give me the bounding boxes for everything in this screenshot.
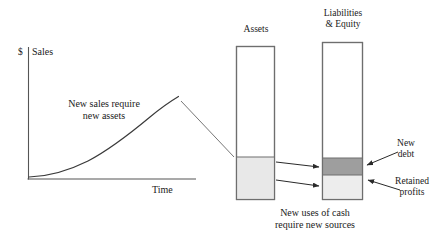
- assets-bar-title: Assets: [244, 24, 269, 35]
- arrow-new-debt-callout: [367, 152, 398, 165]
- assets-bar-segment-new-assets: [237, 157, 274, 200]
- connector-curve-to-assets: [181, 101, 234, 157]
- liabilities-bar-title-line2: & Equity: [324, 19, 363, 30]
- liabilities-bar-title: Liabilities & Equity: [324, 8, 363, 30]
- retained-profits-callout-line2: profits: [395, 187, 429, 198]
- liabilities-bar-segment-retained-profits: [323, 175, 362, 200]
- x-axis-title: Time: [152, 184, 173, 196]
- arrow-assets-to-retained-profits: [276, 180, 319, 186]
- liabilities-bar-segment-new-debt: [323, 158, 362, 175]
- figure-caption-line1: New uses of cash: [275, 207, 355, 219]
- new-debt-callout-line1: New: [397, 138, 415, 149]
- sales-curve-annotation: New sales require new assets: [68, 98, 140, 121]
- figure-caption-line2: require new sources: [275, 219, 355, 231]
- new-debt-callout-label: New debt: [397, 138, 415, 160]
- liabilities-bar-title-line1: Liabilities: [324, 8, 363, 19]
- y-axis-unit-label: $: [18, 47, 23, 58]
- figure-canvas: $ Sales Time New sales require new asset…: [0, 0, 445, 240]
- new-debt-callout-line2: debt: [397, 149, 415, 160]
- y-axis-title: Sales: [32, 46, 53, 58]
- retained-profits-callout-line1: Retained: [395, 176, 429, 187]
- sales-curve-annotation-line1: New sales require: [68, 98, 140, 110]
- sales-curve-annotation-line2: new assets: [68, 110, 140, 122]
- retained-profits-callout-label: Retained profits: [395, 176, 429, 198]
- arrow-assets-to-new-debt: [276, 162, 319, 167]
- diagram-vector-layer: [0, 0, 445, 240]
- figure-caption: New uses of cash require new sources: [275, 207, 355, 230]
